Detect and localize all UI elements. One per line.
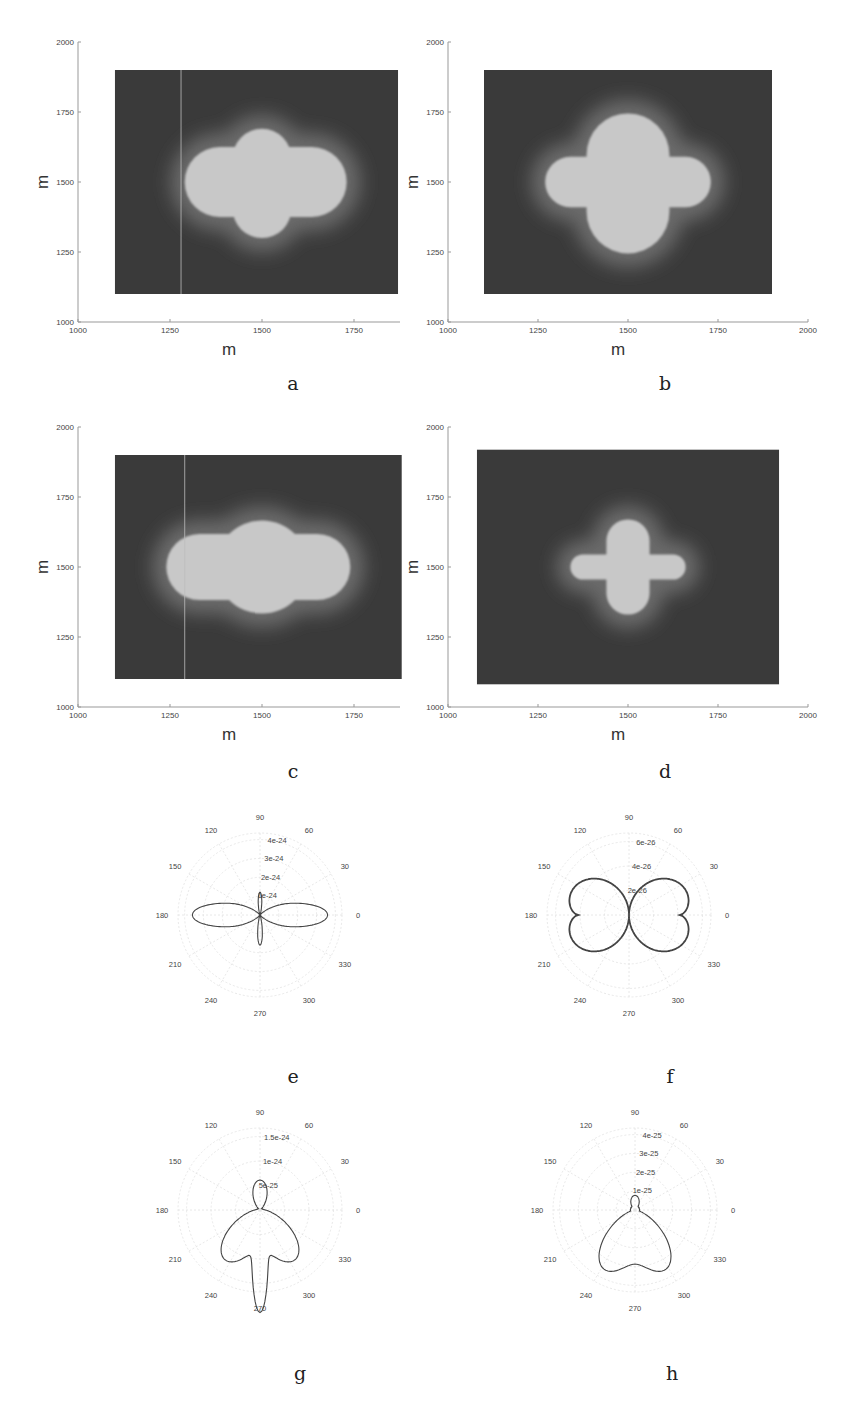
svg-text:300: 300 bbox=[303, 1291, 316, 1300]
caption-c: c bbox=[273, 760, 313, 782]
heatmap-d: 1000125015001750200010001250150017502000… bbox=[400, 415, 820, 755]
svg-text:60: 60 bbox=[674, 826, 682, 835]
svg-text:120: 120 bbox=[574, 826, 587, 835]
panel-f: 03060901201501802102402703003302e-264e-2… bbox=[520, 800, 750, 1030]
svg-text:m: m bbox=[222, 725, 236, 744]
svg-text:2000: 2000 bbox=[56, 423, 74, 432]
heatmap-a: 100012501500175020001000125015001750mm bbox=[30, 30, 410, 370]
svg-text:240: 240 bbox=[580, 1291, 593, 1300]
svg-text:180: 180 bbox=[531, 1206, 544, 1215]
svg-text:150: 150 bbox=[544, 1157, 557, 1166]
svg-text:1500: 1500 bbox=[619, 326, 637, 335]
panel-e: 03060901201501802102402703003301e-242e-2… bbox=[150, 800, 370, 1030]
svg-text:1500: 1500 bbox=[426, 563, 444, 572]
svg-text:30: 30 bbox=[341, 862, 349, 871]
svg-text:270: 270 bbox=[629, 1304, 642, 1313]
svg-text:90: 90 bbox=[625, 813, 633, 822]
svg-text:330: 330 bbox=[714, 1255, 727, 1264]
svg-text:1750: 1750 bbox=[709, 711, 727, 720]
svg-text:1e-25: 1e-25 bbox=[633, 1186, 652, 1195]
svg-text:1000: 1000 bbox=[69, 711, 87, 720]
svg-text:1250: 1250 bbox=[529, 326, 547, 335]
svg-text:4e-26: 4e-26 bbox=[632, 862, 651, 871]
panel-a: 100012501500175020001000125015001750mm bbox=[30, 30, 410, 370]
panel-g: 03060901201501802102402703003305e-251e-2… bbox=[150, 1095, 370, 1325]
heatmap-c: 100012501500175020001000125015001750mm bbox=[30, 415, 410, 755]
svg-text:270: 270 bbox=[623, 1009, 636, 1018]
svg-text:1250: 1250 bbox=[56, 248, 74, 257]
svg-text:1500: 1500 bbox=[56, 563, 74, 572]
svg-text:1750: 1750 bbox=[426, 108, 444, 117]
panel-c: 100012501500175020001000125015001750mm bbox=[30, 415, 410, 755]
svg-text:330: 330 bbox=[339, 1255, 352, 1264]
svg-text:1000: 1000 bbox=[69, 326, 87, 335]
caption-a: a bbox=[273, 372, 313, 394]
svg-text:180: 180 bbox=[525, 911, 538, 920]
svg-text:m: m bbox=[33, 175, 52, 189]
svg-text:2000: 2000 bbox=[426, 38, 444, 47]
svg-text:330: 330 bbox=[339, 960, 352, 969]
svg-text:90: 90 bbox=[631, 1108, 639, 1117]
svg-text:240: 240 bbox=[574, 996, 587, 1005]
svg-text:90: 90 bbox=[256, 1108, 264, 1117]
panel-d: 1000125015001750200010001250150017502000… bbox=[400, 415, 820, 755]
svg-text:3e-24: 3e-24 bbox=[264, 854, 283, 863]
svg-text:210: 210 bbox=[169, 960, 182, 969]
svg-text:300: 300 bbox=[678, 1291, 691, 1300]
polar-g: 03060901201501802102402703003305e-251e-2… bbox=[150, 1095, 370, 1325]
svg-text:300: 300 bbox=[303, 996, 316, 1005]
caption-e: e bbox=[273, 1065, 313, 1087]
caption-f: f bbox=[650, 1065, 690, 1087]
svg-text:120: 120 bbox=[205, 826, 218, 835]
svg-text:1250: 1250 bbox=[56, 633, 74, 642]
svg-text:1750: 1750 bbox=[709, 326, 727, 335]
polar-h: 03060901201501802102402703003301e-252e-2… bbox=[520, 1095, 750, 1325]
svg-text:210: 210 bbox=[544, 1255, 557, 1264]
caption-d: d bbox=[645, 760, 685, 782]
svg-text:150: 150 bbox=[169, 862, 182, 871]
svg-text:60: 60 bbox=[305, 826, 313, 835]
heatmap-b: 1000125015001750200010001250150017502000… bbox=[400, 30, 820, 370]
svg-text:2e-25: 2e-25 bbox=[636, 1168, 655, 1177]
svg-text:60: 60 bbox=[305, 1121, 313, 1130]
svg-text:3e-25: 3e-25 bbox=[639, 1149, 658, 1158]
svg-text:180: 180 bbox=[156, 1206, 169, 1215]
svg-text:210: 210 bbox=[169, 1255, 182, 1264]
polar-f: 03060901201501802102402703003302e-264e-2… bbox=[520, 800, 750, 1030]
svg-text:1750: 1750 bbox=[56, 108, 74, 117]
svg-text:330: 330 bbox=[708, 960, 721, 969]
svg-text:0: 0 bbox=[731, 1206, 735, 1215]
svg-text:4e-25: 4e-25 bbox=[642, 1131, 661, 1140]
svg-text:m: m bbox=[403, 560, 422, 574]
svg-text:1250: 1250 bbox=[529, 711, 547, 720]
svg-text:0: 0 bbox=[356, 1206, 360, 1215]
svg-text:270: 270 bbox=[254, 1009, 267, 1018]
svg-text:90: 90 bbox=[256, 813, 264, 822]
svg-text:m: m bbox=[403, 175, 422, 189]
svg-text:60: 60 bbox=[680, 1121, 688, 1130]
svg-text:1750: 1750 bbox=[345, 711, 363, 720]
panel-b: 1000125015001750200010001250150017502000… bbox=[400, 30, 820, 370]
svg-text:0: 0 bbox=[356, 911, 360, 920]
svg-text:2e-26: 2e-26 bbox=[628, 886, 647, 895]
svg-text:150: 150 bbox=[169, 1157, 182, 1166]
svg-text:240: 240 bbox=[205, 996, 218, 1005]
svg-text:1750: 1750 bbox=[426, 493, 444, 502]
svg-text:30: 30 bbox=[341, 1157, 349, 1166]
svg-text:150: 150 bbox=[538, 862, 551, 871]
svg-text:m: m bbox=[33, 560, 52, 574]
svg-text:m: m bbox=[222, 340, 236, 359]
svg-text:4e-24: 4e-24 bbox=[267, 836, 286, 845]
polar-e: 03060901201501802102402703003301e-242e-2… bbox=[150, 800, 370, 1030]
svg-text:1500: 1500 bbox=[426, 178, 444, 187]
caption-b: b bbox=[645, 372, 685, 394]
svg-text:240: 240 bbox=[205, 1291, 218, 1300]
svg-text:6e-26: 6e-26 bbox=[636, 838, 655, 847]
svg-text:30: 30 bbox=[710, 862, 718, 871]
svg-text:2e-24: 2e-24 bbox=[261, 873, 280, 882]
svg-text:1250: 1250 bbox=[161, 711, 179, 720]
svg-text:120: 120 bbox=[205, 1121, 218, 1130]
svg-text:2000: 2000 bbox=[56, 38, 74, 47]
svg-text:1500: 1500 bbox=[253, 711, 271, 720]
svg-text:m: m bbox=[611, 725, 625, 744]
